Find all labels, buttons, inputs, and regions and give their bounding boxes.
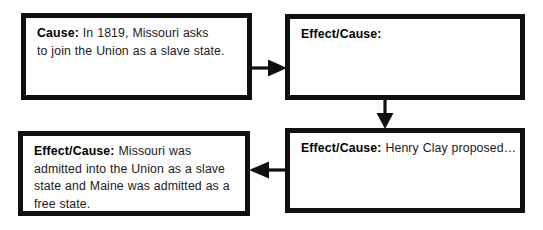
node-cause-text: Cause: In 1819, Missouri asks to join th… xyxy=(37,25,238,60)
node-effect-clay-text: Effect/Cause: Henry Clay proposed… xyxy=(301,140,511,158)
diagram-node-effect-blank[interactable]: Effect/Cause: xyxy=(285,14,525,100)
diagram-node-effect-clay: Effect/Cause: Henry Clay proposed… xyxy=(285,128,525,213)
node-effect-blank-label: Effect/Cause: xyxy=(301,27,382,41)
node-cause-label: Cause: xyxy=(37,26,79,40)
arrow-down-icon xyxy=(372,98,398,130)
arrow-right-icon xyxy=(250,56,288,80)
diagram-node-cause: Cause: In 1819, Missouri asks to join th… xyxy=(21,13,252,100)
diagram-node-effect-final: Effect/Cause: Missouri was admitted into… xyxy=(18,131,250,216)
node-effect-clay-label: Effect/Cause: xyxy=(301,141,382,155)
arrow-left-icon xyxy=(248,158,288,182)
node-effect-final-label: Effect/Cause: xyxy=(34,144,115,158)
node-effect-blank-text: Effect/Cause: xyxy=(301,26,511,44)
node-effect-clay-body: Henry Clay proposed… xyxy=(382,141,517,155)
cause-effect-diagram: Cause: In 1819, Missouri asks to join th… xyxy=(0,0,543,230)
node-effect-final-text: Effect/Cause: Missouri was admitted into… xyxy=(34,143,236,213)
